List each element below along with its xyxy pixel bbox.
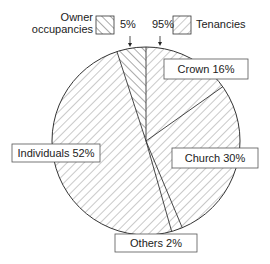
legend-owner-line1: Owner xyxy=(61,11,94,23)
legend: Owner occupancies 5% 95% Tenancies xyxy=(32,11,246,47)
legend-tenancy-swatch xyxy=(173,16,191,34)
arrowhead-tenancy xyxy=(158,42,162,46)
legend-tenancy-percent: 95% xyxy=(152,18,174,30)
legend-owner-swatch xyxy=(96,16,114,34)
label-church: Church 30% xyxy=(185,152,246,164)
legend-owner-percent: 5% xyxy=(120,18,136,30)
arrowhead-owner xyxy=(128,43,132,47)
legend-tenancy-label: Tenancies xyxy=(196,18,246,30)
pie-chart: Owner occupancies 5% 95% Tenancies Crown… xyxy=(0,0,270,264)
label-others: Others 2% xyxy=(130,237,182,249)
label-crown: Crown 16% xyxy=(178,63,235,75)
legend-owner-line2: occupancies xyxy=(32,23,94,35)
label-individuals: Individuals 52% xyxy=(17,147,94,159)
